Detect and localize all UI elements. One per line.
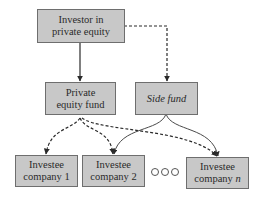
ellipsis-circle-icon [151,168,159,176]
node-investor-line1: Investor in [52,14,110,26]
node-investee-1-line2: company 1 [23,171,69,183]
ellipsis-circle-icon [171,168,179,176]
node-investee-company-2: Investee company 2 [82,155,145,187]
node-investee-1-line1: Investee [23,159,69,171]
node-investor-line2: private equity [52,26,110,38]
diagram-canvas: Investor in private equity Private equit… [0,0,261,198]
node-investee-n-line2: company n [194,173,240,185]
node-investee-n-var: n [235,173,240,184]
node-side-fund: Side fund [135,82,198,115]
node-investee-n-line2-text: company [194,173,235,184]
node-investee-n-line1: Investee [194,161,240,173]
edge-investor-to-side-fund [124,26,167,81]
ellipsis-circles [151,168,179,176]
node-investee-company-n: Investee company n [186,157,249,189]
node-investee-2-line1: Investee [90,159,136,171]
node-pe-fund-line2: equity fund [56,99,104,111]
node-pe-fund-line1: Private [56,87,104,99]
node-investee-2-line2: company 2 [90,171,136,183]
node-side-fund-label: Side fund [147,93,186,105]
edge-pe-fund-to-investee-1 [46,118,80,154]
ellipsis-circle-icon [161,168,169,176]
edge-pe-fund-to-investee-n [82,118,217,156]
node-investor: Investor in private equity [37,9,125,43]
edge-side-fund-to-investee-2 [114,114,166,154]
node-investee-company-1: Investee company 1 [15,155,78,187]
node-private-equity-fund: Private equity fund [45,82,116,115]
